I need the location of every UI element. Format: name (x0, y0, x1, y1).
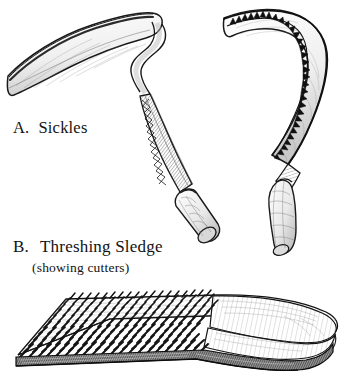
caption-b-subtext: (showing cutters) (32, 260, 130, 276)
caption-a: A.Sickles (13, 118, 88, 138)
figure-illustration: A.Sickles B.Threshing Sledge (showing cu… (0, 0, 346, 380)
caption-b-text: Threshing Sledge (40, 237, 163, 256)
illustration-canvas (0, 0, 346, 380)
caption-a-text: Sickles (38, 118, 87, 137)
caption-a-label: A. (13, 118, 29, 137)
caption-b: B.Threshing Sledge (13, 237, 163, 257)
caption-b-label: B. (13, 237, 29, 256)
